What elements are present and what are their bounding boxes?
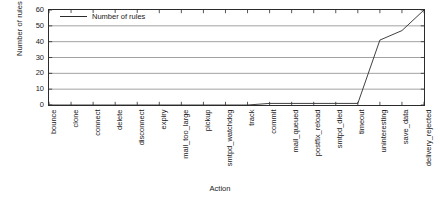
x-tick-label: track bbox=[248, 109, 256, 125]
x-tick-label: mail_queued bbox=[292, 109, 300, 152]
x-tick-label: expiry bbox=[160, 109, 168, 129]
y-tick-label: 60 bbox=[18, 6, 44, 14]
x-tick-label: save_data bbox=[402, 109, 410, 144]
x-tick-label: disconnect bbox=[138, 109, 146, 145]
x-tick-label: clone bbox=[72, 109, 80, 127]
legend-line-swatch bbox=[60, 16, 87, 17]
x-tick-label: postfix_reload bbox=[314, 109, 322, 156]
x-tick-label: pickup bbox=[204, 109, 212, 131]
x-tick-label: delete bbox=[116, 109, 124, 129]
plot-area bbox=[48, 9, 425, 106]
y-tick-label: 50 bbox=[18, 22, 44, 30]
y-tick-label: 30 bbox=[18, 54, 44, 62]
legend: Number of rules bbox=[58, 13, 147, 21]
legend-label: Number of rules bbox=[92, 13, 145, 21]
x-tick-label: uninteresting bbox=[380, 109, 388, 152]
x-tick-label: bounce bbox=[50, 109, 58, 134]
x-tick-label: delivery_rejected bbox=[425, 109, 433, 166]
x-tick-label: smtpd_watchdog bbox=[226, 109, 234, 166]
y-tick-label: 10 bbox=[18, 85, 44, 93]
plot-svg bbox=[49, 10, 424, 105]
x-tick-label: connect bbox=[94, 109, 102, 135]
chart-figure: Number of rules 0102030405060 Number of … bbox=[0, 0, 440, 205]
y-tick-label: 20 bbox=[18, 70, 44, 78]
x-tick-label: smtpd_died bbox=[336, 109, 344, 148]
y-tick-label: 0 bbox=[18, 101, 44, 109]
gridlines bbox=[49, 26, 424, 89]
x-axis-tick-labels: bouncecloneconnectdeletedisconnectexpiry… bbox=[48, 106, 425, 184]
x-axis-title: Action bbox=[0, 184, 440, 193]
x-tick-label: timeout bbox=[358, 109, 366, 134]
y-tick-label: 40 bbox=[18, 38, 44, 46]
x-tick-label: commit bbox=[270, 109, 278, 133]
y-axis-tick-labels: 0102030405060 bbox=[16, 0, 44, 205]
x-tick-label: mail_too_large bbox=[182, 109, 190, 158]
